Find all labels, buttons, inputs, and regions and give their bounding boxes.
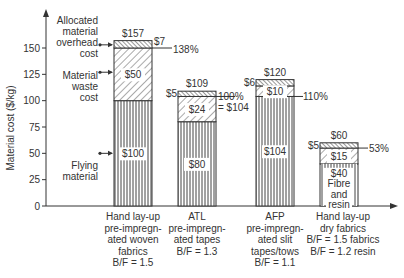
category-label: dry fabrics	[320, 223, 366, 234]
category-label: B/F = 1.5 fabrics	[306, 234, 379, 245]
legend-callout: Material	[62, 70, 98, 81]
segment-label-waste: $50	[125, 69, 142, 80]
total-label: $109	[186, 78, 209, 89]
category-label: B/F = 1.2 resin	[310, 246, 375, 257]
callout-dot-icon	[98, 152, 101, 155]
total-label: $60	[331, 130, 348, 141]
legend-callout: Flying	[71, 160, 98, 171]
segment-label-waste: $24	[189, 104, 206, 115]
category-label: pre-impregn-	[246, 223, 303, 234]
y-tick-label: 100	[23, 95, 40, 106]
category-label: pre-impregn-	[168, 223, 225, 234]
legend-callout: material	[62, 26, 98, 37]
bar-segment-allocated-material-overhead-cost	[320, 143, 358, 148]
category-label: ated tapes	[174, 234, 221, 245]
segment-label-overhead: $7	[154, 36, 166, 47]
callout-dot-icon	[98, 71, 101, 74]
bar-segment-allocated-material-overhead-cost	[114, 41, 152, 48]
segment-label-flying: $80	[189, 159, 206, 170]
category-label: B/F = 1.5	[113, 257, 154, 268]
segment-label-flying: $104	[264, 146, 287, 157]
total-label: $120	[264, 67, 287, 78]
category-label: AFP	[265, 211, 285, 222]
category-label: B/F = 1.3	[177, 246, 218, 257]
category-label: Hand lay-up	[316, 211, 370, 222]
segment-label-flying: and	[331, 189, 348, 200]
legend-callout: cost	[80, 92, 99, 103]
material-cost-chart: 0255075100125150Material cost ($/kg) $10…	[0, 0, 404, 278]
category-label: pre-impregn-	[104, 223, 161, 234]
callout-dot-icon	[98, 43, 101, 46]
category-label: B/F = 1.1	[255, 257, 296, 268]
bar-segment-allocated-material-overhead-cost	[178, 91, 216, 96]
arrowhead-icon	[108, 151, 113, 156]
segment-label-overhead: $5	[308, 140, 320, 151]
segment-label-overhead: $5	[166, 88, 178, 99]
percent-annotation: 138%	[173, 44, 199, 55]
percent-annotation: 53%	[369, 143, 389, 154]
category-label: ated slit	[258, 234, 293, 245]
y-tick-label: 25	[29, 174, 41, 185]
segment-label-waste: $15	[331, 151, 348, 162]
bar-segment-allocated-material-overhead-cost	[256, 80, 294, 86]
legend-callout: waste	[71, 81, 99, 92]
category-label: ATL	[188, 211, 206, 222]
y-tick-label: 75	[29, 122, 41, 133]
y-axis-label: Material cost ($/kg)	[5, 85, 16, 170]
category-label: tapes/tows	[251, 246, 299, 257]
bar-group	[256, 80, 294, 206]
y-axis-arrow-icon	[43, 9, 49, 17]
segment-label-overhead: $6	[244, 77, 256, 88]
percent-annotation: 110%	[303, 91, 328, 102]
labels: $100$50$157$7$80$24$109$5$104$10$120$6$4…	[56, 15, 389, 268]
total-label: $157	[122, 28, 145, 39]
legend-callout: material	[62, 171, 98, 182]
segment-label-flying: $40	[331, 168, 348, 179]
fibre-edge	[321, 164, 324, 206]
arrowhead-icon	[108, 70, 113, 75]
y-tick-label: 150	[23, 43, 40, 54]
segment-label-flying: $100	[122, 148, 145, 159]
y-tick-label: 125	[23, 69, 40, 80]
segment-label-flying: Fibre	[328, 178, 351, 189]
segment-label-waste: $10	[267, 86, 284, 97]
percent-annotation: = $104	[218, 102, 249, 113]
bars	[114, 41, 358, 206]
y-tick-label: 0	[34, 201, 40, 212]
segment-label-flying: resin	[328, 199, 350, 210]
category-label: ated woven	[107, 234, 158, 245]
legend-callout: cost	[80, 48, 99, 59]
category-label: Hand lay-up	[106, 211, 160, 222]
legend-callout: overhead	[56, 37, 98, 48]
fibre-edge	[354, 164, 357, 206]
percent-annotation: 100%	[218, 91, 244, 102]
arrowhead-icon	[108, 42, 113, 47]
legend-callout: Allocated	[57, 15, 98, 26]
y-tick-label: 50	[29, 148, 41, 159]
category-label: fabrics	[118, 246, 147, 257]
x-axis-arrow-icon	[390, 203, 398, 209]
bar-group	[114, 41, 152, 206]
